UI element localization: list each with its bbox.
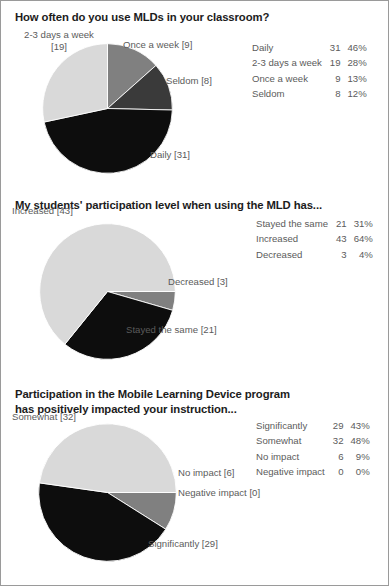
pie-slice (39, 424, 176, 493)
table-row: Significantly2943% (256, 420, 370, 435)
table-row: Seldom812% (252, 88, 367, 103)
row-label: Increased (256, 233, 336, 248)
data-table-impact: Significantly2943%Somewhat3248%No impact… (256, 420, 370, 482)
row-count: 31 (330, 42, 348, 57)
table-row: 2-3 days a week1928% (252, 57, 367, 72)
row-percent: 28% (348, 57, 367, 72)
data-table-body: Daily3146%2-3 days a week1928%Once a wee… (252, 42, 367, 104)
row-label: Daily (252, 42, 330, 57)
table-row: Increased4364% (256, 233, 373, 248)
row-count: 43 (336, 233, 354, 248)
data-table-body: Significantly2943%Somewhat3248%No impact… (256, 420, 370, 482)
row-percent: 4% (354, 249, 373, 264)
table-row: Once a week913% (252, 73, 367, 88)
pie-label-2-3-days-a-week: 2-3 days a week [19] (7, 29, 111, 52)
section-title: How often do you use MLDs in your classr… (15, 10, 269, 25)
pie-label-stayed-the-same: Stayed the same [21] (126, 324, 217, 336)
row-label: Significantly (256, 420, 333, 435)
pie-label-no-impact: No impact [6] (178, 467, 235, 479)
pie-label-daily: Daily [31] (150, 149, 190, 161)
row-percent: 31% (354, 218, 373, 233)
survey-section-frequency: How often do you use MLDs in your classr… (1, 1, 388, 191)
row-label: Negative impact (256, 466, 333, 481)
pie-label-significantly: Significantly [29] (148, 538, 218, 550)
pie-slice (43, 44, 108, 122)
row-label: Somewhat (256, 435, 333, 450)
table-row: Daily3146% (252, 42, 367, 57)
row-count: 0 (333, 466, 351, 481)
pie-label-decreased: Decreased [3] (168, 276, 228, 288)
row-count: 32 (333, 435, 351, 450)
pie-label-somewhat: Somewhat [32] (12, 411, 76, 423)
row-count: 21 (336, 218, 354, 233)
row-label: Once a week (252, 73, 330, 88)
survey-section-impact: Participation in the Mobile Learning Dev… (1, 379, 388, 586)
survey-section-participation: My students' participation level when us… (1, 191, 388, 379)
row-label: Seldom (252, 88, 330, 103)
data-table-body: Stayed the same2131%Increased4364%Decrea… (256, 218, 373, 264)
row-count: 8 (330, 88, 348, 103)
row-percent: 43% (350, 420, 369, 435)
row-percent: 13% (348, 73, 367, 88)
table-row: No impact69% (256, 451, 370, 466)
pie-svg (39, 223, 176, 360)
row-count: 3 (336, 249, 354, 264)
data-table-frequency: Daily3146%2-3 days a week1928%Once a wee… (252, 42, 367, 104)
pie-label-negative-impact: Negative impact [0] (178, 487, 260, 499)
table-row: Decreased34% (256, 249, 373, 264)
table-row: Negative impact00% (256, 466, 370, 481)
row-label: No impact (256, 451, 333, 466)
row-percent: 48% (350, 435, 369, 450)
row-percent: 46% (348, 42, 367, 57)
pie-label-seldom: Seldom [8] (166, 75, 212, 87)
table-row: Somewhat3248% (256, 435, 370, 450)
row-percent: 9% (350, 451, 369, 466)
pie-slices (40, 224, 176, 360)
row-label: Stayed the same (256, 218, 336, 233)
row-count: 29 (333, 420, 351, 435)
row-count: 6 (333, 451, 351, 466)
row-label: Decreased (256, 249, 336, 264)
survey-results-page: How often do you use MLDs in your classr… (0, 0, 389, 586)
pie-label-increased: Increased [43] (12, 205, 73, 217)
row-count: 19 (330, 57, 348, 72)
row-percent: 64% (354, 233, 373, 248)
row-count: 9 (330, 73, 348, 88)
data-table-participation: Stayed the same2131%Increased4364%Decrea… (256, 218, 373, 264)
row-percent: 0% (350, 466, 369, 481)
row-label: 2-3 days a week (252, 57, 330, 72)
pie-chart-participation (39, 223, 176, 360)
row-percent: 12% (348, 88, 367, 103)
table-row: Stayed the same2131% (256, 218, 373, 233)
pie-label-once-a-week: Once a week [9] (123, 39, 192, 51)
